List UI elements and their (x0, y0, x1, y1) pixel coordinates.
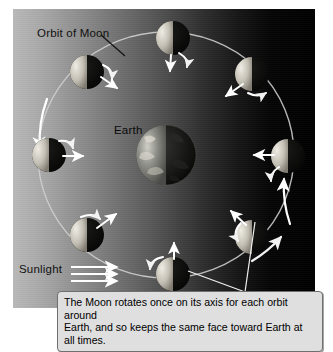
moon-upper-left (70, 55, 117, 89)
caption-box: The Moon rotates once on its axis for ea… (57, 291, 323, 352)
sunlight-rays (71, 267, 117, 281)
sunlight-label: Sunlight (19, 263, 62, 275)
earth-globe (136, 125, 196, 185)
earth-label: Earth (114, 124, 143, 136)
moon-lower-left (70, 214, 116, 252)
moon-bottom (150, 243, 190, 291)
moon-top (156, 21, 190, 71)
caption-line-2: Earth, and so keeps the same face toward… (64, 321, 316, 346)
orbit-of-moon-label: Orbit of Moon (37, 27, 109, 39)
caption-line-1: The Moon rotates once on its axis for ea… (64, 296, 316, 321)
moon-left (32, 138, 83, 172)
moon-right (254, 139, 305, 181)
moon-upper-right (226, 57, 269, 96)
moon-lower-right (231, 211, 269, 254)
